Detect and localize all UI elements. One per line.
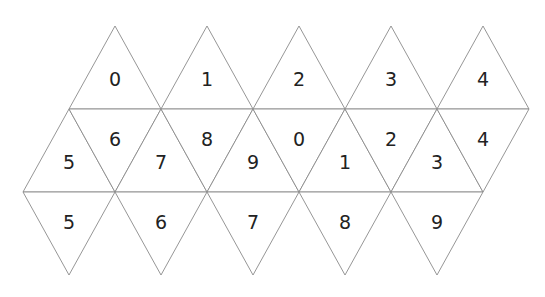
face-bottom-1 (115, 192, 207, 275)
face-top-2-label: 2 (293, 68, 305, 90)
face-middle-1-label: 6 (109, 128, 121, 150)
face-bottom-2 (207, 192, 299, 275)
face-top-1-label: 1 (201, 68, 213, 90)
face-top-4-label: 4 (477, 68, 489, 90)
face-bottom-1-label: 6 (155, 211, 167, 233)
face-bottom-3 (299, 192, 391, 275)
face-middle-0-label: 5 (63, 151, 75, 173)
face-middle-3-label: 8 (201, 128, 213, 150)
face-bottom-0 (23, 192, 115, 275)
face-middle-4-label: 9 (247, 151, 259, 173)
faces-group (23, 26, 529, 275)
face-bottom-2-label: 7 (247, 211, 259, 233)
face-bottom-4 (391, 192, 483, 275)
face-middle-2-label: 7 (155, 151, 167, 173)
face-middle-6-label: 1 (339, 151, 351, 173)
face-middle-9-label: 4 (477, 128, 489, 150)
face-top-0-label: 0 (109, 68, 121, 90)
icosahedron-net: 01234567890123456789 (0, 0, 545, 297)
face-bottom-3-label: 8 (339, 211, 351, 233)
face-bottom-4-label: 9 (431, 211, 443, 233)
face-top-3-label: 3 (385, 68, 397, 90)
face-middle-7-label: 2 (385, 128, 397, 150)
face-middle-8-label: 3 (431, 151, 443, 173)
face-bottom-0-label: 5 (63, 211, 75, 233)
face-middle-5-label: 0 (293, 128, 305, 150)
